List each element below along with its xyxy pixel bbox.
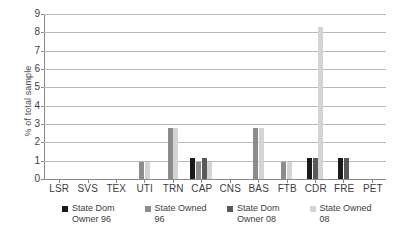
bar-group [130, 14, 158, 179]
bar-group [358, 14, 386, 179]
bar[interactable] [313, 158, 318, 179]
bar[interactable] [202, 158, 207, 179]
bar[interactable] [207, 162, 212, 179]
legend-swatch [62, 206, 68, 212]
y-tick-label: 8 [34, 27, 40, 37]
y-tick-mark [41, 69, 44, 70]
bar-groups [45, 14, 386, 179]
y-tick-label: 2 [34, 137, 40, 147]
bar[interactable] [344, 158, 349, 179]
y-tick-label: 0 [34, 174, 40, 184]
x-tick-label: CDR [302, 183, 331, 194]
y-tick-label: 4 [34, 101, 40, 111]
y-tick-mark [41, 51, 44, 52]
bar[interactable] [168, 128, 173, 179]
y-tick-label: 7 [34, 46, 40, 56]
bar[interactable] [196, 162, 201, 179]
legend-label: State Owned96 [155, 203, 207, 225]
bar[interactable] [253, 128, 258, 179]
bar-group [301, 14, 329, 179]
x-tick-label: TEX [102, 183, 131, 194]
bar-chart-figure: % of total sample 0123456789 LSRSVSTEXUT… [0, 0, 400, 244]
x-tick-label: FTB [273, 183, 302, 194]
bar[interactable] [259, 128, 264, 179]
y-tick-label: 6 [34, 64, 40, 74]
chart-legend: State DomOwner 96State Owned96State DomO… [62, 203, 392, 225]
bar[interactable] [190, 158, 195, 179]
x-tick-label: CAP [188, 183, 217, 194]
bar-group [45, 14, 73, 179]
plot-area: 0123456789 [44, 14, 386, 179]
x-tick-label: LSR [45, 183, 74, 194]
legend-item[interactable]: State Owned08 [310, 203, 393, 225]
legend-swatch [310, 206, 316, 212]
bar-group [244, 14, 272, 179]
x-tick-label: FRE [330, 183, 359, 194]
y-tick-mark [41, 32, 44, 33]
x-tick-label: UTI [131, 183, 160, 194]
x-tick-label: TRN [159, 183, 188, 194]
bar[interactable] [307, 158, 312, 179]
x-tick-label: SVS [74, 183, 103, 194]
legend-label: State DomOwner 08 [237, 203, 280, 225]
legend-swatch [145, 206, 151, 212]
bar-group [102, 14, 130, 179]
bar-group [216, 14, 244, 179]
y-tick-label: 1 [34, 156, 40, 166]
bar-group [159, 14, 187, 179]
y-tick-mark [41, 142, 44, 143]
legend-label: State Owned08 [320, 203, 372, 225]
y-axis-title: % of total sample [23, 26, 33, 176]
y-tick-mark [41, 161, 44, 162]
x-axis-tick-labels: LSRSVSTEXUTITRNCAPCNSBASFTBCDRFREPET [45, 183, 387, 194]
y-tick-mark [41, 106, 44, 107]
bar[interactable] [173, 128, 178, 179]
bar-group [272, 14, 300, 179]
legend-swatch [227, 206, 233, 212]
bar-group [187, 14, 215, 179]
bar[interactable] [338, 158, 343, 179]
x-tick-label: PET [359, 183, 388, 194]
y-tick-label: 3 [34, 119, 40, 129]
legend-item[interactable]: State DomOwner 08 [227, 203, 310, 225]
bar[interactable] [318, 27, 323, 179]
legend-label: State DomOwner 96 [72, 203, 115, 225]
legend-item[interactable]: State DomOwner 96 [62, 203, 145, 225]
bar[interactable] [145, 162, 150, 179]
y-tick-label: 5 [34, 82, 40, 92]
bar[interactable] [287, 162, 292, 179]
legend-item[interactable]: State Owned96 [145, 203, 228, 225]
gridline [44, 179, 386, 180]
y-tick-mark [41, 124, 44, 125]
x-tick-label: CNS [216, 183, 245, 194]
bar[interactable] [281, 162, 286, 179]
x-tick-label: BAS [245, 183, 274, 194]
bar[interactable] [139, 162, 144, 179]
bar-group [73, 14, 101, 179]
y-tick-label: 9 [34, 9, 40, 19]
y-tick-mark [41, 179, 44, 180]
bar-group [329, 14, 357, 179]
y-tick-mark [41, 87, 44, 88]
y-tick-mark [41, 14, 44, 15]
